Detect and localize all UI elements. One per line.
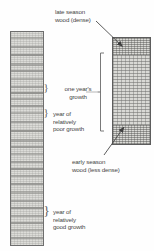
diagram-canvas: } } } late season wood (dense) one year'… [0,0,154,251]
label-one-years-growth: one year's growth [57,85,99,100]
core-ring [11,215,43,217]
brace-one-year: } [44,82,49,93]
core-ring [11,222,43,224]
label-late-season-wood: late season wood (dense) [55,8,91,23]
core-ring [11,63,43,66]
core-ring [11,121,43,123]
dense-band-bottom [113,125,150,144]
core-ring [11,112,43,114]
core-ring [11,139,43,142]
core-ring [11,130,43,132]
core-ring [11,168,43,170]
core-ring [11,146,43,148]
magnified-wood-block [112,37,151,145]
core-ring [11,86,43,88]
core-ring [11,98,43,100]
core-ring [11,153,43,155]
brace-good-year: } [44,205,50,216]
brace-poor-year: } [44,107,49,118]
dense-band-top [113,38,150,55]
light-cell-band [113,55,150,125]
core-ring [11,78,43,80]
label-good-growth: year of relatively good growth [53,208,85,231]
label-poor-growth: year of relatively poor growth [53,110,84,133]
core-ring [11,161,43,163]
core-ring [11,229,43,231]
core-ring [11,237,43,239]
core-ring [11,92,43,94]
core-ring [11,183,43,185]
core-ring [11,175,43,177]
label-early-season-wood: early season wood (less dense) [72,158,120,173]
core-ring [11,37,43,39]
core-ring [11,105,43,107]
core-sample-strip [10,31,44,246]
core-ring [11,191,43,194]
core-ring [11,200,43,202]
core-ring [11,54,43,56]
core-ring [11,207,43,209]
core-ring [11,46,43,48]
core-ring [11,70,43,72]
